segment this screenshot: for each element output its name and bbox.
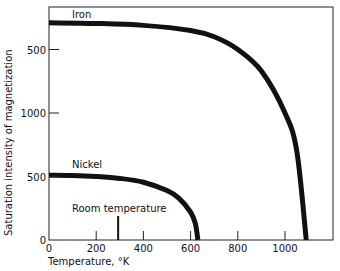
x-tick-label: 1000	[272, 243, 297, 254]
y-axis-label: Saturation intensity of magnetization	[3, 49, 14, 236]
x-tick-label: 200	[87, 243, 106, 254]
iron-label: Iron	[72, 9, 91, 20]
nickel-label: Nickel	[72, 159, 102, 170]
x-tick-label: 600	[181, 243, 200, 254]
x-axis-ticks: 02004006008001000	[46, 216, 298, 254]
magnetization-chart: 02004006008001000 05001000500 Iron Nicke…	[0, 0, 340, 271]
y-tick-label: 500	[27, 172, 46, 183]
x-tick-label: 800	[228, 243, 247, 254]
x-tick-label: 400	[134, 243, 153, 254]
x-tick-label: 0	[46, 243, 52, 254]
y-tick-label: 500	[27, 45, 46, 56]
y-tick-label: 0	[40, 235, 46, 246]
x-axis-label: Temperature, °K	[47, 256, 130, 267]
y-tick-label: 1000	[21, 108, 46, 119]
room-temperature-label: Room temperature	[72, 203, 167, 214]
y-axis-ticks: 05001000500	[21, 45, 59, 247]
